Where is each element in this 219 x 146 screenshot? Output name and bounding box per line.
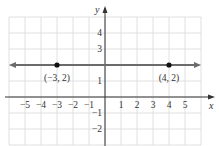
x-axis-arrow-icon (208, 95, 215, 100)
y-axis-label: y (94, 4, 100, 15)
left-arrow-icon (9, 62, 16, 68)
y-axis-arrow-icon (103, 6, 108, 13)
y-tick-label: −1 (92, 108, 102, 118)
right-arrow-icon (194, 62, 201, 68)
coordinate-plane: xy −5−4−3−2−112345431−1−2 (−3, 2)(4, 2) (0, 0, 219, 146)
point-label: (4, 2) (159, 73, 180, 84)
y-tick-label: −2 (92, 124, 102, 134)
y-tick-label: 3 (97, 44, 102, 54)
x-tick-label: −4 (36, 100, 46, 110)
x-tick-label: −5 (20, 100, 30, 110)
point-marker (166, 62, 171, 67)
x-tick-label: 1 (119, 100, 124, 110)
x-tick-label: 4 (167, 100, 172, 110)
x-tick-label: 2 (135, 100, 140, 110)
point-marker (54, 62, 59, 67)
x-tick-label: −2 (68, 100, 78, 110)
y-tick-label: 4 (97, 28, 102, 38)
x-tick-label: 5 (183, 100, 188, 110)
y-tick-label: 1 (97, 76, 102, 86)
x-tick-label: 3 (151, 100, 156, 110)
axes: xy (5, 4, 215, 146)
point-label: (−3, 2) (44, 73, 70, 84)
x-axis-label: x (208, 100, 214, 111)
x-tick-label: −3 (52, 100, 62, 110)
